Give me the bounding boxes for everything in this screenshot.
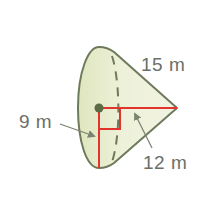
height-label: 12 m — [143, 153, 187, 172]
radius-label: 9 m — [19, 112, 52, 131]
cone-svg — [0, 0, 204, 208]
base-center-dot — [95, 104, 104, 113]
slant-height-label: 15 m — [141, 55, 185, 74]
cone-diagram: 15 m 9 m 12 m — [0, 0, 204, 208]
